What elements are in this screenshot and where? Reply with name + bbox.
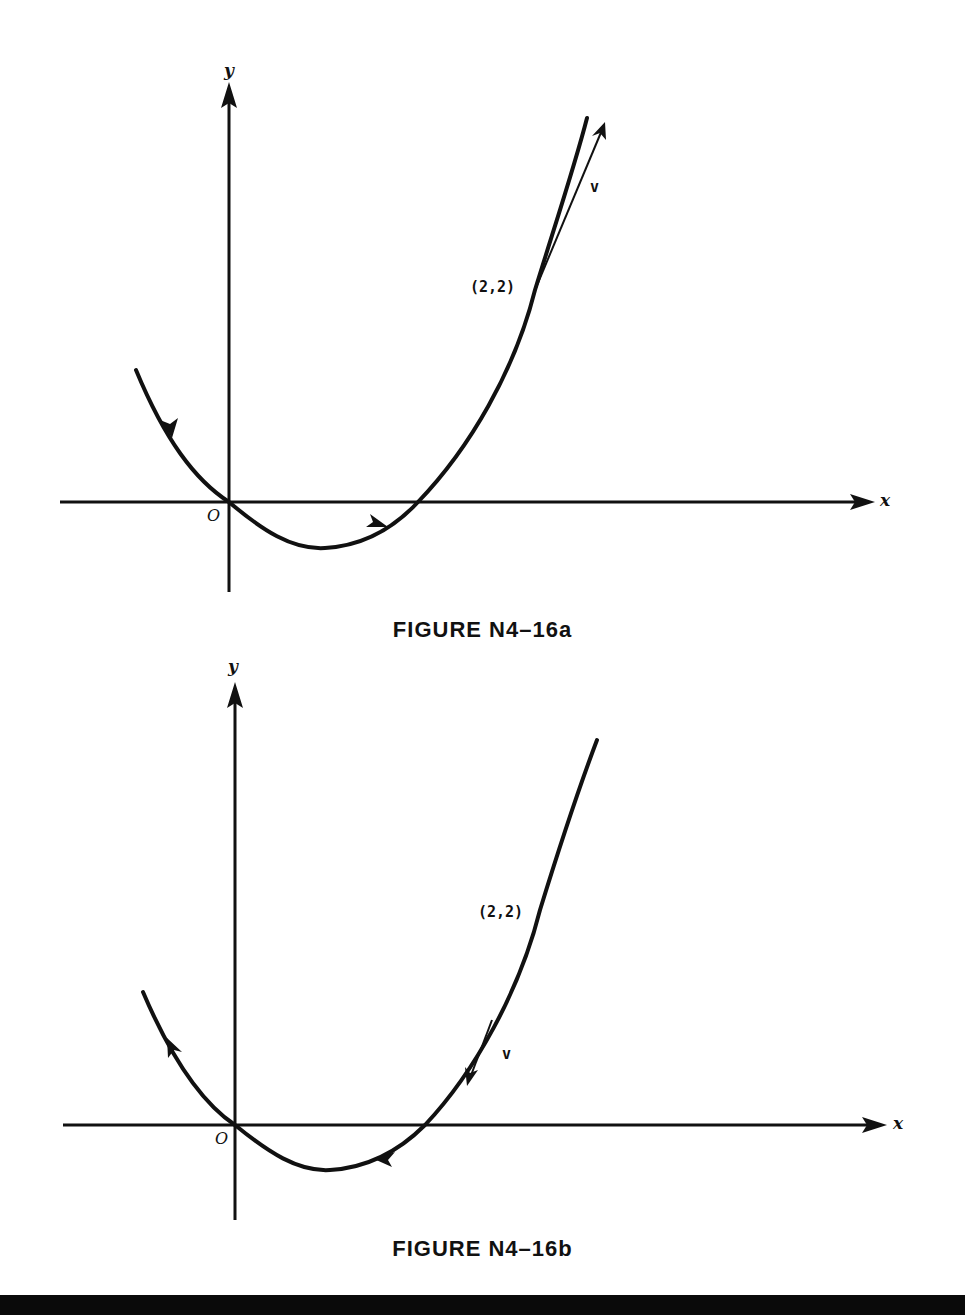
x-axis (63, 1117, 887, 1133)
figure-b-plot (0, 660, 965, 1295)
x-axis-label: x (880, 490, 890, 510)
vector-label: v (502, 1045, 511, 1063)
origin-label: O (215, 1129, 228, 1148)
point-label: (2,2) (478, 903, 523, 921)
direction-arrow-icon (366, 514, 388, 527)
origin-label: O (207, 506, 220, 525)
vector-label: v (590, 178, 599, 196)
velocity-vector (465, 1020, 492, 1086)
figure-b: y x O (2,2) v FIGURE N4–16b (0, 660, 965, 1295)
page-bottom-edge (0, 1295, 965, 1315)
velocity-vector (535, 122, 606, 290)
x-axis (60, 494, 875, 510)
y-axis (221, 82, 237, 592)
figure-caption: FIGURE N4–16a (0, 617, 965, 643)
parabola-curve (143, 740, 597, 1170)
x-axis-label: x (893, 1113, 903, 1133)
point-label: (2,2) (470, 278, 515, 296)
y-axis-label: y (228, 656, 238, 676)
y-axis (227, 682, 243, 1220)
figure-a: y x O (2,2) v FIGURE N4–16a (0, 0, 965, 660)
parabola-curve (136, 118, 587, 548)
figure-caption: FIGURE N4–16b (0, 1236, 965, 1262)
y-axis-label: y (224, 60, 234, 80)
vector-arrowhead-icon (465, 1067, 478, 1086)
figure-a-plot (0, 0, 965, 660)
